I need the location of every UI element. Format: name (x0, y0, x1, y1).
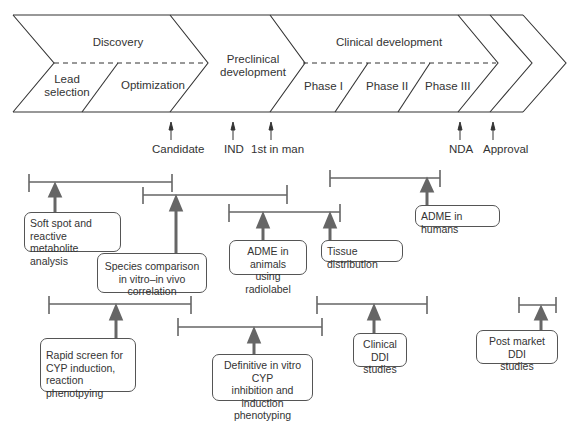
substage-phase2-label: Phase II (366, 80, 408, 93)
preclinical-line2: development (220, 66, 286, 79)
adme-animals-range-bracket (229, 204, 340, 222)
post-market-line1: Post market DDI (482, 335, 552, 360)
preclinical-line1: Preclinical (220, 53, 286, 66)
milestone-approval: Approval (483, 143, 528, 155)
adme-humans-arrow-icon (422, 180, 432, 191)
species-range-bracket (143, 185, 287, 204)
activity-definitive-box: Definitive in vitro CYP inhibition and i… (212, 354, 313, 401)
post-market-range-bracket (519, 297, 556, 313)
lead-selection-line2: selection (44, 86, 90, 99)
candidate-arrow-icon (169, 122, 173, 130)
soft-spot-range-bracket (29, 174, 172, 192)
adme-animals-line2: using radiolabel (235, 270, 301, 295)
adme-animals-arrow-icon (258, 215, 268, 227)
activity-adme-humans-box: ADME in humans (415, 205, 500, 227)
stage-clinical-label: Clinical development (336, 36, 442, 49)
approval-arrow-icon (491, 122, 495, 130)
first-in-man-arrow-icon (269, 122, 273, 130)
milestone-first-in-man: 1st in man (251, 143, 304, 155)
milestone-nda: NDA (449, 143, 473, 155)
adme-animals-line1: ADME in animals (235, 245, 301, 270)
clinical-ddi-line2: studies (359, 363, 401, 376)
stage-discovery-label: Discovery (88, 36, 148, 49)
clinical-ddi-line1: Clinical DDI (359, 338, 401, 363)
milestone-ind: IND (224, 143, 244, 155)
approval-chevron (523, 15, 566, 112)
definitive-arrow-icon (249, 330, 259, 342)
rapid-screen-arrow-icon (111, 307, 121, 319)
definitive-line1: Definitive in vitro CYP (218, 359, 307, 384)
activity-adme-animals-box: ADME in animals using radiolabel (229, 240, 307, 275)
post-market-line2: studies (482, 360, 552, 373)
definitive-line3: phenotyping (218, 409, 307, 422)
milestone-candidate: Candidate (152, 143, 204, 155)
nda-chevron (490, 15, 532, 112)
tissue-arrow-icon (325, 215, 335, 227)
rapid-screen-range-bracket (49, 296, 191, 314)
substage-optimization-label: Optimization (120, 79, 186, 92)
lead-selection-line1: Lead (44, 73, 90, 86)
species-line1: Species comparison (103, 260, 201, 273)
activity-soft-spot-box: Soft spot and reactive metabolite analys… (24, 212, 121, 252)
activity-rapid-screen-box: Rapid screen for CYP induction, reaction… (40, 338, 136, 392)
ind-arrow-icon (231, 122, 235, 130)
activity-clinical-ddi-box: Clinical DDI studies (353, 333, 407, 367)
species-line2: in vitro–in vivo correlation (103, 273, 201, 298)
definitive-line2: inhibition and induction (218, 384, 307, 409)
substage-lead-selection-label: Lead selection (44, 73, 90, 99)
activity-tissue-distribution-box: Tissue distribution (321, 240, 403, 262)
post-market-arrow-icon (536, 308, 546, 319)
substage-phase1-label: Phase I (304, 80, 343, 93)
species-arrow-icon (171, 198, 181, 210)
nda-arrow-icon (458, 122, 462, 130)
soft-spot-arrow-icon (50, 185, 60, 196)
activity-post-market-box: Post market DDI studies (476, 330, 558, 364)
definitive-range-bracket (178, 318, 322, 336)
clinical-ddi-arrow-icon (369, 307, 379, 319)
substage-phase3-label: Phase III (425, 80, 470, 93)
stage-preclinical-label: Preclinical development (220, 53, 286, 79)
activity-species-box: Species comparison in vitro–in vivo corr… (97, 253, 207, 293)
